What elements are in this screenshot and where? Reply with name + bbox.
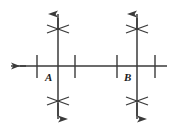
- geometry-construction-figure: A B: [0, 0, 174, 126]
- point-label-b: B: [123, 71, 131, 83]
- point-label-a: A: [44, 71, 52, 83]
- construction-canvas: A B: [0, 0, 174, 126]
